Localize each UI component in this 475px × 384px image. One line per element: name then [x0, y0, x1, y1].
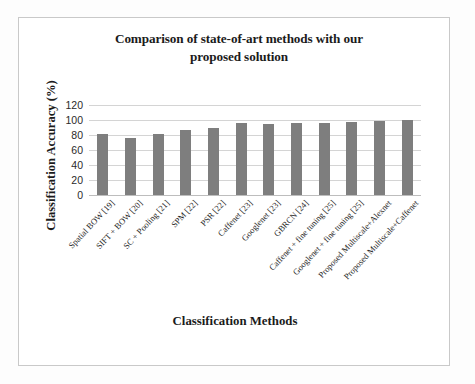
y-tick-label-60: 60: [71, 144, 83, 156]
y-tick-label-20: 20: [71, 174, 83, 186]
chart-title-line-1: Comparison of state-of-art methods with …: [69, 30, 409, 48]
bar: [153, 134, 164, 196]
bar: [402, 120, 413, 195]
y-tick-label-100: 100: [65, 114, 83, 126]
chart-title-line-2: proposed solution: [69, 48, 409, 66]
y-tick-label-40: 40: [71, 159, 83, 171]
x-tick-label: SPM [22]: [169, 198, 199, 229]
bar: [180, 130, 191, 195]
bar: [208, 128, 219, 195]
x-axis-title: Classification Methods: [19, 314, 451, 329]
plot-area: 020406080100120: [89, 105, 421, 195]
y-tick-label-0: 0: [77, 189, 83, 201]
bar: [291, 123, 302, 195]
bar: [125, 138, 136, 195]
bar: [236, 123, 247, 195]
y-tick-label-120: 120: [65, 99, 83, 111]
bar: [346, 122, 357, 195]
chart-figure: Comparison of state-of-art methods with …: [18, 17, 450, 366]
bar: [319, 123, 330, 195]
y-axis-title: Classification Accuracy (%): [44, 61, 59, 251]
gridline-0: [89, 195, 421, 196]
bar: [263, 124, 274, 195]
bar: [374, 121, 385, 195]
x-axis-tick-labels: Spatial BOW [19]SIFT + BOW [20]SC + Pool…: [89, 198, 429, 318]
y-tick-label-80: 80: [71, 129, 83, 141]
page-background: Comparison of state-of-art methods with …: [0, 0, 475, 384]
chart-title: Comparison of state-of-art methods with …: [69, 30, 409, 66]
bar-series: [89, 105, 421, 195]
bar: [97, 134, 108, 195]
